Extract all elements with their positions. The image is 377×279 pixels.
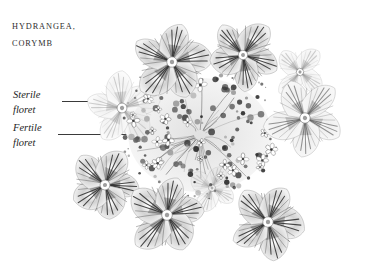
fertile-floret-petal <box>264 133 268 138</box>
fertile-floret-petal <box>132 121 137 127</box>
fertile-floret <box>151 157 163 169</box>
petal-vein <box>270 222 301 226</box>
floret-petal <box>231 54 262 94</box>
fertile-bud <box>194 83 198 87</box>
fertile-floret-petal <box>158 157 162 162</box>
fertile-bud <box>164 144 169 149</box>
floret-center <box>298 111 312 125</box>
petal-vein <box>266 224 288 247</box>
petal-vein <box>244 25 258 55</box>
floret-petal <box>234 19 273 60</box>
fertile-bud <box>190 169 194 173</box>
petal-throat-shading <box>145 198 167 219</box>
fertile-floret-center <box>224 164 226 166</box>
fertile-floret-petal <box>164 113 170 119</box>
pedicel <box>169 136 194 139</box>
fertile-bud <box>231 85 237 91</box>
fertile-bud <box>255 153 258 156</box>
fertile-bud <box>143 99 147 103</box>
fertile-bud <box>144 116 150 122</box>
petal-vein <box>166 33 172 60</box>
fertile-floret-petal <box>156 85 160 88</box>
floret-petal <box>258 186 291 224</box>
sterile-floret <box>69 146 144 223</box>
fertile-floret-center <box>132 119 135 122</box>
petal-vein <box>301 88 317 116</box>
annotation-sterile-line-1: Sterile <box>13 88 40 103</box>
cluster-speck <box>194 195 196 197</box>
fertile-bud <box>200 115 203 118</box>
floret-center-dot <box>170 60 175 65</box>
petal-vein <box>157 217 172 246</box>
floret-petal <box>116 79 163 121</box>
fertile-floret <box>147 82 160 96</box>
fertile-floret-petal <box>199 155 202 158</box>
petal-vein <box>272 110 302 142</box>
fertile-floret-petal <box>166 82 172 88</box>
fertile-floret-petal <box>157 106 159 109</box>
floret-center <box>295 67 305 77</box>
floret-petal <box>164 193 206 227</box>
petal-vein <box>266 224 284 252</box>
fertile-floret-petal <box>263 158 269 162</box>
petal-throat-shading <box>288 69 303 84</box>
fertile-bud <box>237 116 241 120</box>
petal-vein <box>279 97 308 116</box>
petal-vein <box>140 189 165 218</box>
fertile-floret-petal <box>183 121 187 124</box>
petal-vein <box>106 155 113 183</box>
petal-throat-shading <box>171 51 191 68</box>
petal-vein <box>269 222 291 241</box>
fertile-floret-petal <box>260 129 265 134</box>
fertile-floret-petal <box>159 108 162 111</box>
pedicel <box>137 137 194 151</box>
fertile-bud <box>244 164 248 168</box>
petal-vein <box>255 222 266 248</box>
fertile-bud <box>208 129 215 136</box>
pedicel <box>195 140 199 160</box>
fertile-bud <box>138 172 141 175</box>
fertile-bud <box>182 115 188 121</box>
petal-vein <box>123 92 152 107</box>
petal-vein <box>244 221 266 245</box>
fertile-bud <box>236 158 241 163</box>
petal-vein <box>114 81 136 106</box>
cluster-speck <box>174 208 175 209</box>
floret-petal <box>128 184 168 227</box>
floret-petal <box>170 39 215 75</box>
fertile-floret-petal <box>221 175 225 178</box>
floret-center <box>207 183 216 192</box>
fertile-floret-petal <box>200 157 203 159</box>
petal-vein <box>172 41 196 62</box>
fertile-floret-center <box>220 175 222 177</box>
fertile-floret-petal <box>199 143 202 147</box>
fertile-floret <box>219 159 230 170</box>
petal-vein <box>269 205 291 222</box>
petal-vein <box>142 64 171 71</box>
petal-vein <box>280 61 298 78</box>
floret-petal <box>240 43 281 77</box>
fertile-bud <box>219 73 223 77</box>
annotation-sterile-line-2: floret <box>13 103 40 118</box>
pedicel <box>204 139 246 177</box>
fertile-bud <box>246 120 250 124</box>
fertile-floret-petal <box>158 160 164 165</box>
fertile-floret-petal <box>147 164 151 167</box>
petal-vein <box>161 34 173 61</box>
petal-vein <box>142 64 172 78</box>
fertile-floret-petal <box>145 166 148 170</box>
petal-vein <box>124 99 151 123</box>
petal-throat-shading <box>243 38 260 58</box>
petal-vein <box>161 181 179 213</box>
fertile-bud <box>193 146 199 152</box>
fertile-bud <box>237 100 242 105</box>
petal-vein <box>300 51 316 70</box>
petal-vein <box>280 113 303 142</box>
floret-center <box>262 216 273 227</box>
petal-vein <box>124 96 154 113</box>
fertile-bud <box>224 135 227 138</box>
petal-vein <box>270 211 295 225</box>
fertile-floret-petal <box>155 158 160 162</box>
fertile-bud <box>224 180 229 185</box>
petal-vein <box>142 64 173 92</box>
